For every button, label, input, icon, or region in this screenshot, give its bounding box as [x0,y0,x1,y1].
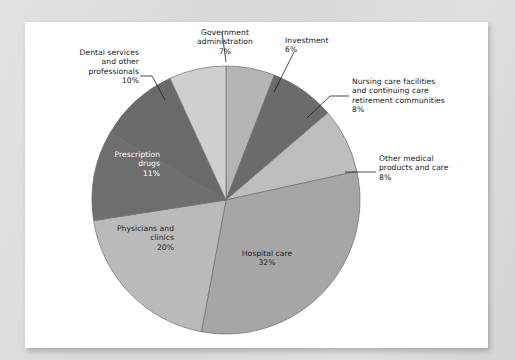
slice-label-prescription-drugs: Prescription drugs 11% [100,150,160,178]
slice-label-investment: Investment 6% [285,36,365,55]
slice-label-hospital-care: Hospital care 32% [222,249,312,268]
slice-label-dental-services: Dental services and other professionals … [22,48,139,85]
slice-label-physicians-clinics: Physicians and clinics 20% [104,224,174,252]
slice-label-other-medical: Other medical products and care 8% [379,154,494,182]
screenshot-root: Government administration 7% Investment … [0,0,515,360]
pie-chart: Government administration 7% Investment … [0,0,515,360]
slice-label-nursing-care: Nursing care facilities and continuing c… [352,77,492,114]
slice-label-government-administration: Government administration 7% [160,28,290,56]
